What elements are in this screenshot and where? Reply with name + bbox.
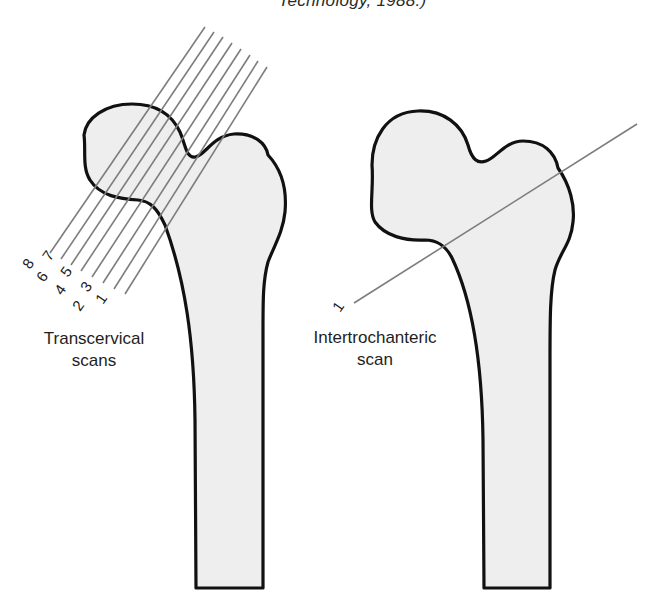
transcervical-label-line1: Transcervical xyxy=(24,328,164,350)
transcervical-scans-label: Transcervical scans xyxy=(24,328,164,372)
scan-number-5: 5 xyxy=(57,263,76,280)
scan-number-4: 4 xyxy=(51,281,70,298)
scan-number-1: 1 xyxy=(92,290,111,307)
scan-number-6: 6 xyxy=(33,268,52,285)
scan-number-1-right: 1 xyxy=(329,298,348,315)
intertrochanteric-label-line2: scan xyxy=(290,349,460,371)
femur-scan-diagram: 8 7 6 5 4 3 2 1 1 xyxy=(0,0,665,616)
transcervical-label-line2: scans xyxy=(24,350,164,372)
scan-number-8: 8 xyxy=(19,255,38,272)
intertrochanteric-scan-label: Intertrochanteric scan xyxy=(290,327,460,371)
intertrochanteric-label-line1: Intertrochanteric xyxy=(290,327,460,349)
scan-number-2: 2 xyxy=(69,297,88,314)
scan-number-7: 7 xyxy=(39,247,58,264)
transcervical-scan-numbers: 8 7 6 5 4 3 2 1 xyxy=(19,247,111,314)
scan-number-3: 3 xyxy=(77,278,96,295)
